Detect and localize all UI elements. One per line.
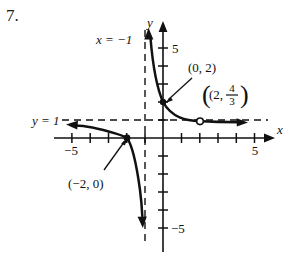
vertical-asymptote-label: x = −1	[95, 32, 132, 47]
x-tick-label-negative: −5	[64, 143, 78, 158]
point-label-2-4over3-x: (2,	[209, 87, 223, 102]
x-tick-label-positive: 5	[252, 143, 259, 158]
curve-left-arrowhead	[66, 121, 78, 130]
point-label-2-4over3-denominator: 3	[229, 95, 235, 107]
point-0-2-marker	[160, 99, 166, 105]
figure-page: 7.	[0, 0, 296, 262]
x-axis-arrowhead	[264, 134, 275, 143]
curve-left-branch	[66, 121, 147, 228]
leader-line-point-0-2	[169, 78, 193, 100]
point-label-neg2-0: (−2, 0)	[68, 176, 104, 191]
point-label-2-4over3-close-paren: )	[240, 80, 249, 109]
point-label-2-4over3: ( (2, 4 3 )	[202, 80, 249, 109]
point-2-4over3-marker	[197, 118, 204, 125]
point-label-0-2: (0, 2)	[188, 60, 216, 75]
curve-right-branch	[144, 28, 248, 127]
y-axis-arrowhead	[159, 21, 168, 32]
x-axis-label: x	[276, 122, 283, 137]
leader-lines	[104, 78, 192, 170]
point-label-2-4over3-numerator: 4	[229, 82, 235, 94]
curve-right-path	[151, 38, 241, 122]
horizontal-asymptote-label: y = 1	[30, 113, 60, 128]
y-tick-label-negative: −5	[171, 221, 185, 236]
leader-line-point-neg2-0	[104, 142, 125, 171]
text-labels: y x 5 −5 −5 5 x = −1 y = 1 (0, 2) (−2, 0…	[30, 15, 283, 236]
y-tick-label-positive: 5	[172, 41, 179, 56]
y-axis-label: y	[145, 15, 153, 30]
graph-figure: y x 5 −5 −5 5 x = −1 y = 1 (0, 2) (−2, 0…	[0, 0, 296, 262]
axes-group	[54, 21, 275, 252]
